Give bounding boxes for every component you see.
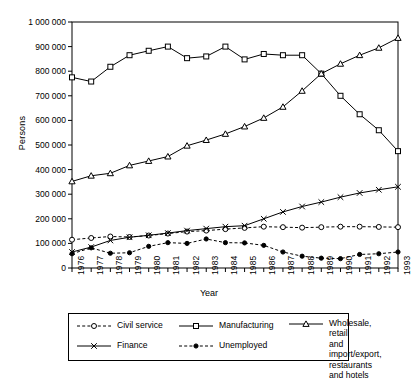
- legend-item-label: Civil service: [113, 320, 163, 330]
- y-tick-label: 400 000: [6, 166, 66, 174]
- x-tick-label: 1976: [76, 256, 86, 275]
- y-tick-label: 800 000: [6, 67, 66, 75]
- plot-area: 0100 000200 000300 000400 000500 000600 …: [0, 0, 418, 300]
- legend: Civil serviceManufacturingWholesale, ret…: [68, 313, 349, 361]
- x-tick-label: 1987: [286, 256, 296, 275]
- legend-key-filled-circle: [177, 340, 215, 351]
- x-tick-label: 1992: [382, 256, 392, 275]
- x-tick-label: 1983: [210, 256, 220, 275]
- y-tick-label: 100 000: [6, 239, 66, 247]
- legend-item-label: Manufacturing: [215, 320, 273, 330]
- x-tick-label: 1978: [114, 256, 124, 275]
- legend-item-label: Unemployed: [215, 340, 267, 350]
- series-wholesale: [69, 35, 401, 184]
- x-tick-label: 1980: [152, 256, 162, 275]
- legend-item[interactable]: Unemployed: [177, 340, 267, 351]
- axes: [68, 22, 398, 272]
- data-series-layer: [69, 35, 401, 261]
- y-tick-label: 500 000: [6, 141, 66, 149]
- x-tick-label: 1988: [306, 256, 316, 275]
- legend-key-cross-x: [75, 340, 113, 351]
- series-finance: [69, 184, 401, 255]
- x-tick-label: 1993: [402, 256, 412, 275]
- legend-item[interactable]: Manufacturing: [177, 320, 273, 331]
- y-tick-label: 700 000: [6, 92, 66, 100]
- y-tick-label: 900 000: [6, 43, 66, 51]
- legend-item[interactable]: Civil service: [75, 320, 163, 331]
- x-tick-label: 1986: [267, 256, 277, 275]
- y-axis-title: Persons: [17, 93, 27, 173]
- x-tick-label: 1991: [363, 256, 373, 275]
- legend-key-open-triangle: [287, 318, 325, 329]
- x-tick-label: 1990: [344, 256, 354, 275]
- series-manufacturing: [70, 44, 401, 154]
- y-tick-label: 0: [6, 264, 66, 272]
- x-tick-label: 1977: [95, 256, 105, 275]
- y-tick-label: 1 000 000: [6, 18, 66, 26]
- legend-key-open-circle: [75, 320, 113, 331]
- x-tick-label: 1979: [133, 256, 143, 275]
- y-tick-label: 300 000: [6, 190, 66, 198]
- legend-item-label: Wholesale, retail and import/export, res…: [325, 318, 382, 380]
- x-tick-label: 1984: [229, 256, 239, 275]
- x-tick-label: 1989: [325, 256, 335, 275]
- legend-item[interactable]: Finance: [75, 340, 148, 351]
- legend-items: Civil serviceManufacturingWholesale, ret…: [69, 314, 348, 360]
- x-tick-label: 1985: [248, 256, 258, 275]
- x-axis-title: Year: [0, 288, 418, 298]
- legend-item[interactable]: Wholesale, retail and import/export, res…: [287, 318, 382, 380]
- x-tick-label: 1982: [191, 256, 201, 275]
- legend-item-label: Finance: [113, 340, 148, 350]
- y-tick-label: 200 000: [6, 215, 66, 223]
- y-tick-label: 600 000: [6, 116, 66, 124]
- series-civil-service: [70, 224, 401, 242]
- x-tick-label: 1981: [171, 256, 181, 275]
- legend-key-open-square: [177, 320, 215, 331]
